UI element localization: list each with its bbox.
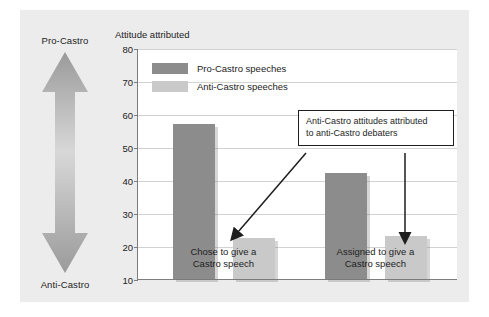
x-axis-label-group-2-line1: Assigned to give a — [300, 246, 450, 258]
scale-top-label: Pro-Castro — [25, 35, 105, 46]
legend-item-anti-castro: Anti-Castro speeches — [152, 79, 288, 94]
y-axis-tick-mark — [134, 49, 138, 50]
double-headed-arrow-icon — [25, 50, 105, 275]
legend: Pro-Castro speeches Anti-Castro speeches — [152, 61, 288, 97]
y-axis-tick-mark — [134, 115, 138, 116]
y-axis-tick-mark — [134, 214, 138, 215]
callout-line-2: to anti-Castro debaters — [306, 128, 447, 140]
x-axis-label-group-2: Assigned to give a Castro speech — [300, 246, 450, 270]
y-axis-tick-mark — [134, 247, 138, 248]
y-axis-tick-label: 50 — [122, 143, 133, 154]
legend-swatch-anti-castro — [152, 81, 188, 92]
attitude-scale-axis: Pro-Castro Anti-Castro — [25, 35, 105, 290]
y-axis-tick-label: 20 — [122, 242, 133, 253]
figure-panel: Pro-Castro Anti-Castro Attitude attribut… — [20, 10, 469, 302]
legend-label-anti-castro: Anti-Castro speeches — [197, 81, 288, 92]
legend-label-pro-castro: Pro-Castro speeches — [197, 63, 286, 74]
y-axis-tick-label: 30 — [122, 209, 133, 220]
y-axis-tick-mark — [134, 181, 138, 182]
y-axis-tick-label: 80 — [122, 44, 133, 55]
x-axis-label-group-1-line1: Chose to give a — [148, 246, 298, 258]
y-axis-tick-label: 10 — [122, 275, 133, 286]
legend-item-pro-castro: Pro-Castro speeches — [152, 61, 288, 76]
y-axis-tick-mark — [134, 148, 138, 149]
y-axis-tick-label: 60 — [122, 110, 133, 121]
gridline — [138, 49, 457, 50]
x-axis-label-group-1: Chose to give a Castro speech — [148, 246, 298, 270]
chart-title: Attitude attributed — [115, 29, 189, 40]
x-axis-label-group-2-line2: Castro speech — [300, 258, 450, 270]
y-axis-tick-label: 40 — [122, 176, 133, 187]
y-axis-tick-mark — [134, 82, 138, 83]
callout-line-1: Anti-Castro attitudes attributed — [306, 116, 447, 128]
scale-bottom-label: Anti-Castro — [25, 279, 105, 290]
y-axis-tick-mark — [134, 280, 138, 281]
y-axis-tick-label: 70 — [122, 77, 133, 88]
legend-swatch-pro-castro — [152, 63, 188, 74]
x-axis-label-group-1-line2: Castro speech — [148, 258, 298, 270]
callout-box: Anti-Castro attitudes attributed to anti… — [298, 110, 454, 146]
